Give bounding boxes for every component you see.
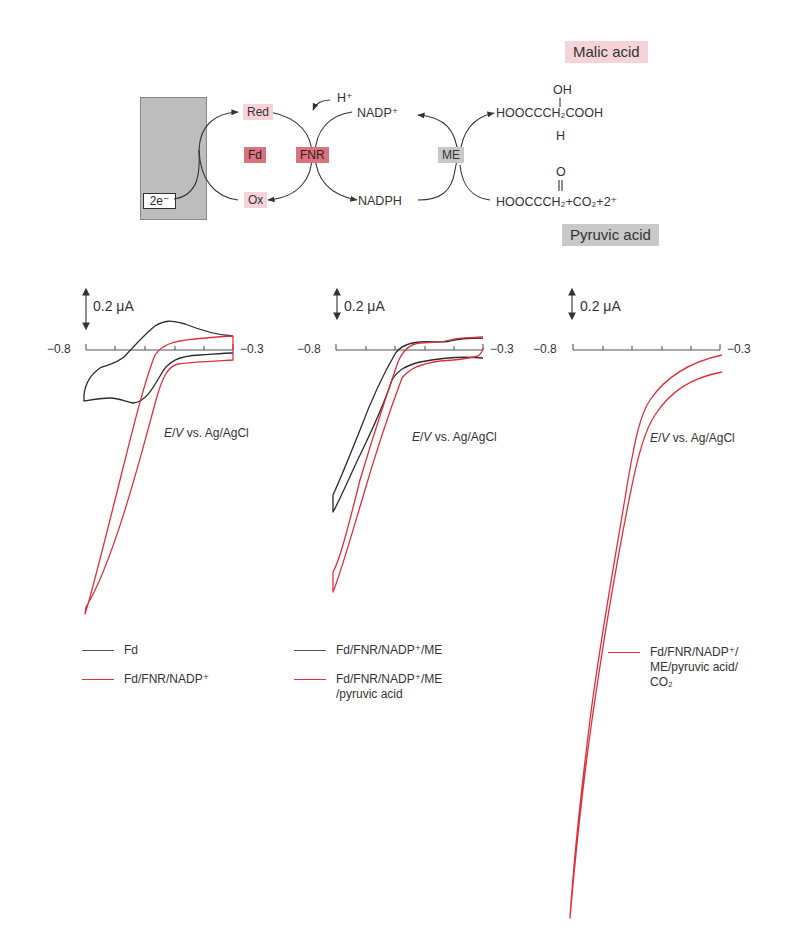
x-max-label-3: −0.3 — [727, 342, 751, 356]
scale-bar-2 — [334, 289, 340, 319]
scale-bar-label-1: 0.2 μA — [93, 298, 134, 314]
scale-bar-label-3: 0.2 μA — [580, 298, 621, 314]
curve-fd-fnr-nadp-me — [333, 338, 483, 512]
x-max-label-2: −0.3 — [490, 342, 514, 356]
x-min-label-2: −0.8 — [297, 342, 321, 356]
scale-bar-3 — [569, 289, 575, 319]
legend-item-fd-fnr-nadp-me-pyruvic-co2: Fd/FNR/NADP⁺/ME/pyruvic acid/CO₂ — [608, 645, 738, 690]
legend-swatch-red — [608, 652, 640, 653]
legend-item-fd-fnr-nadp-me-pyruvic: Fd/FNR/NADP⁺/ME/pyruvic acid — [294, 672, 442, 702]
x-min-label-1: −0.8 — [47, 342, 71, 356]
legend-swatch-black — [82, 650, 114, 651]
x-axis-title-3: E/V vs. Ag/AgCl — [650, 431, 735, 445]
voltammogram-plots — [0, 0, 798, 948]
legend-swatch-red — [82, 679, 114, 680]
x-min-label-3: −0.8 — [533, 342, 557, 356]
x-axis-title-1: E/V vs. Ag/AgCl — [164, 426, 249, 440]
scale-bar-label-2: 0.2 μA — [344, 298, 385, 314]
scale-bar-1 — [83, 289, 89, 329]
legend-item-fd-fnr-nadp-me: Fd/FNR/NADP⁺/ME — [294, 643, 442, 658]
x-max-label-1: −0.3 — [240, 342, 264, 356]
legend-item-fd-fnr-nadp: Fd/FNR/NADP⁺ — [82, 672, 209, 687]
legend-swatch-black — [294, 650, 326, 651]
legend-item-fd: Fd — [82, 643, 138, 658]
legend-swatch-red — [294, 679, 326, 680]
x-axis-title-2: E/V vs. Ag/AgCl — [412, 430, 497, 444]
